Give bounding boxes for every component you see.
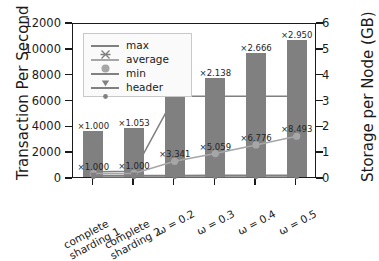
legend-label: header [126, 80, 163, 95]
x-tick-label-line: ω = 0.2 [154, 207, 196, 237]
y-tick-mark-right [316, 177, 323, 179]
y-tick-label-left: 12000 [24, 16, 61, 30]
average-value-label: ×8.493 [281, 124, 312, 134]
y-tick-mark-left [65, 100, 72, 102]
y-tick-mark-right [316, 74, 323, 76]
y-tick-label-right: 5 [322, 42, 329, 56]
average-value-label: ×5.059 [200, 142, 231, 152]
x-tick-label: ω = 0.4 [236, 207, 278, 237]
x-tick-label-line: ω = 0.4 [236, 207, 278, 237]
x-tick-mark [295, 178, 297, 185]
y-tick-label-left: 2000 [32, 145, 61, 159]
average-value-label: ×1.000 [78, 162, 109, 172]
legend-item-average: average [84, 52, 191, 67]
y-tick-label-left: 8000 [32, 68, 61, 82]
chart-legend: maxaverageminheader [83, 33, 192, 97]
legend-label: average [126, 52, 169, 67]
y-tick-label-left: 6000 [32, 94, 61, 108]
legend-label: max [126, 38, 149, 53]
y-tick-mark-left [65, 177, 72, 179]
x-tick-label: ω = 0.2 [154, 207, 196, 237]
legend-item-min: min [84, 66, 191, 81]
y-tick-label-right: 4 [322, 68, 329, 82]
x-tick-label: ω = 0.3 [195, 207, 237, 237]
y-tick-mark-left [65, 22, 72, 24]
average-value-label: ×1.000 [118, 161, 149, 171]
y-tick-mark-left [65, 151, 72, 153]
x-tick-label-line: ω = 0.5 [276, 207, 318, 237]
y-tick-label-right: 1 [322, 145, 329, 159]
y-tick-mark-right [316, 100, 323, 102]
average-value-label: ×6.776 [240, 133, 271, 143]
y-tick-mark-left [65, 126, 72, 128]
bar-value-label: ×2.666 [240, 43, 271, 53]
y-tick-label-right: 3 [322, 94, 329, 108]
y-tick-mark-right [316, 151, 323, 153]
y-tick-mark-right [316, 48, 323, 50]
x-tick-label: ω = 0.5 [276, 207, 318, 237]
y-axis-right-title: Storage per Node (GB) [359, 11, 377, 182]
y-tick-mark-left [65, 74, 72, 76]
y-tick-mark-right [316, 22, 323, 24]
y-tick-label-right: 0 [322, 171, 329, 185]
x-tick-label-line: ω = 0.3 [195, 207, 237, 237]
legend-marker-o-small-icon [105, 87, 111, 106]
y-tick-label-left: 4000 [32, 119, 61, 133]
y-tick-mark-right [316, 126, 323, 128]
y-tick-mark-left [65, 48, 72, 50]
bar-value-label: ×2.138 [200, 68, 231, 78]
average-value-label: ×3.341 [159, 149, 190, 159]
bar-value-label: ×1.053 [118, 118, 149, 128]
legend-label: min [126, 66, 146, 81]
bar-value-label: ×2.950 [281, 30, 312, 40]
y-axis-left-title: Transaction Per Second [14, 6, 32, 180]
legend-item-max: max [84, 38, 191, 53]
y-tick-label-left: 10000 [24, 42, 61, 56]
legend-item-header: header [84, 80, 191, 95]
bar-value-label: ×1.000 [78, 121, 109, 131]
y-tick-label-right: 6 [322, 16, 329, 30]
y-tick-label-left: 0 [54, 171, 61, 185]
y-tick-label-right: 2 [322, 119, 329, 133]
